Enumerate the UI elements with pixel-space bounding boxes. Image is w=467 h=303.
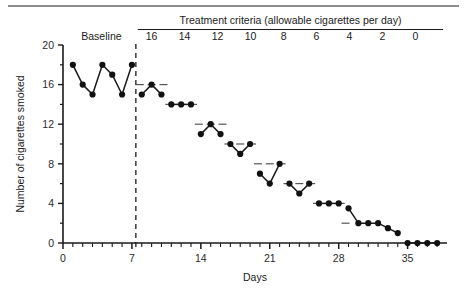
y-axis-title: Number of cigarettes smoked (14, 75, 26, 212)
data-point-marker[interactable] (80, 82, 86, 88)
y-axis-tick-label: 8 (48, 158, 54, 170)
x-axis-tick-label: 35 (402, 252, 414, 264)
data-point-marker[interactable] (208, 121, 214, 127)
data-point-marker[interactable] (365, 220, 371, 226)
data-point-marker[interactable] (286, 181, 292, 187)
data-point-marker[interactable] (424, 240, 430, 246)
data-point-marker[interactable] (139, 91, 145, 97)
data-point-marker[interactable] (198, 131, 204, 137)
y-axis-tick-label: 20 (42, 39, 54, 51)
data-point-marker[interactable] (109, 72, 115, 78)
cigarettes-smoked-line-chart: 048121620Number of cigarettes smoked0714… (0, 0, 467, 303)
data-point-marker[interactable] (99, 62, 105, 68)
x-axis-tick-label: 7 (129, 252, 135, 264)
data-point-marker[interactable] (405, 240, 411, 246)
criteria-value-label: 10 (245, 30, 257, 42)
data-point-marker[interactable] (345, 205, 351, 211)
y-axis-tick-label: 12 (42, 118, 54, 130)
criteria-value-label: 4 (347, 30, 353, 42)
data-point-marker[interactable] (434, 240, 440, 246)
criteria-value-label: 14 (179, 30, 191, 42)
data-point-marker[interactable] (247, 141, 253, 147)
data-point-marker[interactable] (296, 190, 302, 196)
data-point-marker[interactable] (257, 171, 263, 177)
data-point-marker[interactable] (149, 82, 155, 88)
criteria-value-label: 12 (212, 30, 224, 42)
data-point-marker[interactable] (395, 230, 401, 236)
figure-root: 048121620Number of cigarettes smoked0714… (0, 0, 467, 303)
criteria-value-label: 6 (314, 30, 320, 42)
data-point-marker[interactable] (414, 240, 420, 246)
data-point-marker[interactable] (217, 131, 223, 137)
data-point-marker[interactable] (70, 62, 76, 68)
data-point-marker[interactable] (129, 62, 135, 68)
data-point-marker[interactable] (178, 101, 184, 107)
data-point-marker[interactable] (119, 91, 125, 97)
x-axis-tick-label: 28 (333, 252, 345, 264)
criteria-value-label: 8 (281, 30, 287, 42)
criteria-value-label: 16 (146, 30, 158, 42)
data-point-marker[interactable] (326, 200, 332, 206)
x-axis-tick-label: 21 (264, 252, 276, 264)
x-axis-tick-label: 0 (60, 252, 66, 264)
data-point-marker[interactable] (336, 200, 342, 206)
x-axis-tick-label: 14 (195, 252, 207, 264)
criteria-value-label: 2 (380, 30, 386, 42)
treatment-criteria-header: Treatment criteria (allowable cigarettes… (179, 14, 401, 26)
data-point-marker[interactable] (375, 220, 381, 226)
data-point-marker[interactable] (237, 151, 243, 157)
y-axis-tick-label: 16 (42, 78, 54, 90)
data-series-line (73, 65, 132, 95)
data-point-marker[interactable] (168, 101, 174, 107)
criteria-value-label: 0 (413, 30, 419, 42)
data-point-marker[interactable] (277, 161, 283, 167)
x-axis-title: Days (243, 271, 267, 283)
data-point-marker[interactable] (227, 141, 233, 147)
data-point-marker[interactable] (385, 225, 391, 231)
y-axis-tick-label: 0 (48, 237, 54, 249)
data-point-marker[interactable] (306, 181, 312, 187)
data-point-marker[interactable] (158, 91, 164, 97)
data-point-marker[interactable] (267, 181, 273, 187)
data-point-marker[interactable] (316, 200, 322, 206)
y-axis-tick-label: 4 (48, 197, 54, 209)
data-point-marker[interactable] (188, 101, 194, 107)
data-point-marker[interactable] (355, 220, 361, 226)
baseline-phase-label: Baseline (81, 30, 121, 42)
data-point-marker[interactable] (89, 91, 95, 97)
